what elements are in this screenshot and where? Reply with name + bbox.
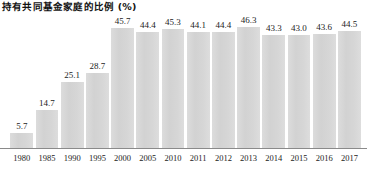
bar-rect [162,29,185,148]
bar-rect [10,133,33,148]
bar-1990[interactable]: 25.1 [60,14,85,148]
bar-rect [237,27,260,148]
x-tick-1990: 1990 [60,152,85,164]
bar-value-label: 45.7 [110,16,135,27]
x-tick-2005: 2005 [135,152,160,164]
bar-value-label: 46.3 [236,15,261,26]
x-tick-2012: 2012 [211,152,236,164]
bar-1995[interactable]: 28.7 [85,14,110,148]
bar-2017[interactable]: 44.5 [337,14,362,148]
bar-rect [61,82,84,148]
bar-2005[interactable]: 44.4 [135,14,160,148]
x-tick-2000: 2000 [110,152,135,164]
bar-value-label: 5.7 [9,121,34,132]
bar-rect [86,73,109,148]
x-tick-2013: 2013 [236,152,261,164]
bar-value-label: 25.1 [60,70,85,81]
bar-rect [187,32,210,148]
x-tick-2014: 2014 [261,152,286,164]
bar-value-label: 43.0 [286,23,311,34]
bar-value-label: 45.3 [160,17,185,28]
x-tick-2015: 2015 [286,152,311,164]
x-tick-1985: 1985 [34,152,59,164]
x-tick-2011: 2011 [186,152,211,164]
bar-2015[interactable]: 43.0 [286,14,311,148]
plot-area: 5.714.725.128.745.744.445.344.144.446.34… [0,14,367,148]
x-tick-1995: 1995 [85,152,110,164]
bar-2014[interactable]: 43.3 [261,14,286,148]
bar-rect [212,32,235,148]
bar-value-label: 44.4 [211,20,236,31]
x-axis-tick-labels: 1980198519901995200020052010201120122013… [0,150,367,168]
bar-rect [36,110,59,149]
bar-value-label: 43.6 [312,22,337,33]
bar-1980[interactable]: 5.7 [9,14,34,148]
bar-rect [313,34,336,148]
bar-value-label: 28.7 [85,61,110,72]
bar-rect [262,35,285,148]
x-tick-2016: 2016 [312,152,337,164]
bar-value-label: 44.4 [135,20,160,31]
bar-2012[interactable]: 44.4 [211,14,236,148]
x-tick-1980: 1980 [9,152,34,164]
chart-title: 持有共同基金家庭的比例 (%) [2,0,137,13]
bar-value-label: 14.7 [34,98,59,109]
bar-2011[interactable]: 44.1 [186,14,211,148]
bar-value-label: 44.1 [186,20,211,31]
bar-chart: 持有共同基金家庭的比例 (%) 5.714.725.128.745.744.44… [0,0,367,169]
bar-rect [338,31,361,148]
bar-2016[interactable]: 43.6 [312,14,337,148]
x-tick-2017: 2017 [337,152,362,164]
bar-rect [136,32,159,148]
bar-2000[interactable]: 45.7 [110,14,135,148]
bar-value-label: 44.5 [337,19,362,30]
bar-1985[interactable]: 14.7 [34,14,59,148]
bar-rect [111,28,134,148]
bar-2013[interactable]: 46.3 [236,14,261,148]
bar-2010[interactable]: 45.3 [160,14,185,148]
bar-rect [288,35,311,148]
x-tick-2010: 2010 [160,152,185,164]
bar-value-label: 43.3 [261,23,286,34]
x-axis-line [0,148,367,149]
